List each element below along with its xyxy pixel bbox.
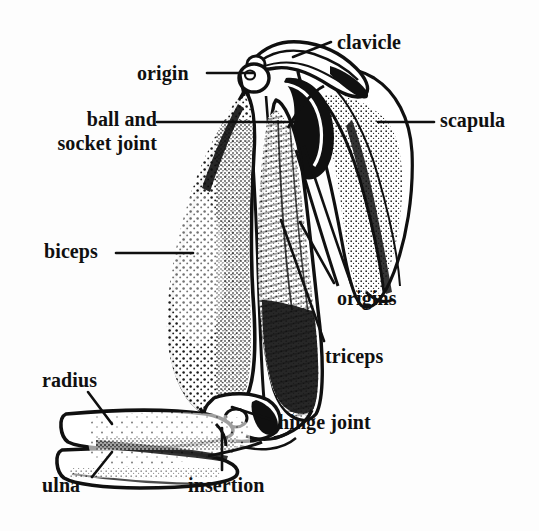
label-ball-and-socket-joint-line2: socket joint — [26, 132, 157, 156]
label-ball-and-socket-joint-line1: ball and — [26, 108, 157, 132]
anatomy-figure: clavicle origin ball and socket joint sc… — [0, 0, 539, 531]
label-ulna: ulna — [42, 474, 80, 498]
arm-anatomy-illustration — [0, 0, 539, 531]
label-radius: radius — [42, 369, 97, 393]
label-ball-and-socket-joint: ball and socket joint — [26, 108, 157, 155]
label-origin: origin — [137, 62, 189, 86]
label-triceps: triceps — [325, 345, 383, 369]
label-biceps: biceps — [44, 240, 98, 264]
label-clavicle: clavicle — [337, 31, 401, 55]
label-insertion: insertion — [188, 474, 264, 498]
label-hinge-joint: hinge joint — [278, 411, 371, 435]
label-scapula: scapula — [440, 109, 505, 133]
label-origins: origins — [337, 287, 397, 311]
